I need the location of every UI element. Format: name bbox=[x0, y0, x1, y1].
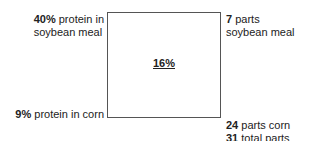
corn-protein-value: 9% bbox=[15, 108, 31, 120]
soybean-protein-value: 40% bbox=[34, 13, 56, 25]
corn-protein-label: 9% protein in corn bbox=[15, 108, 104, 121]
soybean-parts-line2: soybean meal bbox=[226, 26, 295, 39]
soybean-parts-text: parts bbox=[232, 13, 260, 25]
corn-protein-text: protein in corn bbox=[31, 108, 104, 120]
soybean-protein-line2: soybean meal bbox=[34, 26, 104, 39]
corn-parts-label: 24 parts corn 31 total parts bbox=[226, 119, 290, 141]
target-percentage-value: 16% bbox=[153, 57, 175, 69]
total-parts-text: total parts bbox=[238, 132, 289, 141]
target-percentage: 16% bbox=[107, 57, 221, 70]
soybean-protein-label: 40% protein in soybean meal bbox=[34, 13, 104, 39]
total-parts-value: 31 bbox=[226, 132, 238, 141]
corn-parts-value: 24 bbox=[226, 119, 238, 131]
soybean-parts-label: 7 parts soybean meal bbox=[226, 13, 295, 39]
corn-parts-text: parts corn bbox=[238, 119, 290, 131]
soybean-protein-text: protein in bbox=[56, 13, 104, 25]
